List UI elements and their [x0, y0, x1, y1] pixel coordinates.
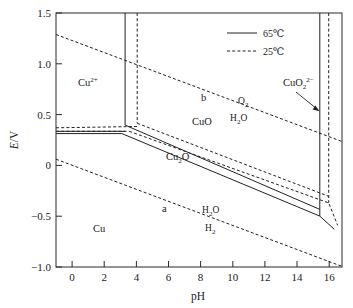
x-ticklabel-0: 0: [69, 271, 75, 283]
x-axis-ticklabels: 0 2 4 6 8 10 12 14 16: [69, 271, 335, 283]
x-ticklabel-2: 4: [134, 271, 140, 283]
annotation-a-label: a: [162, 203, 167, 214]
x-ticklabel-4: 8: [198, 271, 204, 283]
svg-text:E/V: E/V: [8, 130, 20, 150]
region-label-cuo: CuO: [192, 116, 212, 127]
y-ticklabel-0: 1.5: [37, 7, 51, 19]
annotation-b-label: b: [201, 92, 206, 103]
y-ticklabel-4: −0.5: [31, 210, 51, 222]
x-axis-title: pH: [191, 290, 205, 303]
y-ticklabel-2: 0.5: [37, 109, 51, 121]
pourbaix-chart: 1.5 1.0 0.5 0 −0.5 −1.0 0 2 4 6 8 10 12 …: [0, 0, 353, 308]
x-ticklabel-5: 10: [227, 271, 239, 283]
y-axis-title: E/V: [8, 130, 20, 150]
x-ticklabel-1: 2: [101, 271, 107, 283]
y-ticklabel-3: 0: [46, 159, 52, 171]
y-axis-ticklabels: 1.5 1.0 0.5 0 −0.5 −1.0: [31, 7, 51, 273]
y-axis-title-e: E: [8, 142, 20, 150]
pourbaix-figure: 1.5 1.0 0.5 0 −0.5 −1.0 0 2 4 6 8 10 12 …: [0, 0, 353, 308]
legend-label-25c: 25℃: [263, 46, 284, 57]
x-ticklabel-8: 16: [324, 271, 336, 283]
y-ticklabel-1: 1.0: [37, 58, 51, 70]
y-ticklabel-5: −1.0: [31, 261, 51, 273]
region-label-cu: Cu: [93, 223, 106, 234]
x-ticklabel-7: 14: [292, 271, 304, 283]
x-ticklabel-3: 6: [166, 271, 172, 283]
legend-label-65c: 65℃: [263, 28, 284, 39]
x-ticklabel-6: 12: [259, 271, 270, 283]
